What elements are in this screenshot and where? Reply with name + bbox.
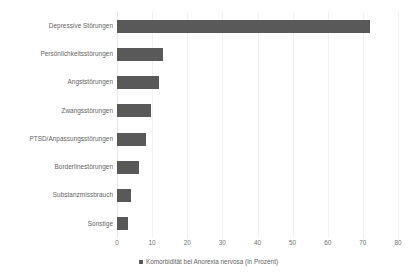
bar (117, 20, 370, 33)
x-tick-label: 80 (394, 240, 401, 246)
bar-row (117, 12, 398, 40)
category-label: Sonstige (0, 210, 113, 238)
x-tick-label: 50 (289, 240, 296, 246)
chart-legend: Komorbidität bei Anorexia nervosa (in Pr… (0, 259, 417, 265)
x-tick-label: 0 (115, 240, 119, 246)
bar-row (117, 97, 398, 125)
bar-row (117, 69, 398, 97)
legend-square-marker (139, 260, 143, 264)
bar-chart: Depressive StörungenPersönlichkeitsstöru… (0, 0, 417, 279)
category-label: Angststörungen (0, 69, 113, 97)
x-tick-label: 60 (324, 240, 331, 246)
x-tick-label: 70 (359, 240, 366, 246)
x-tick-label: 20 (184, 240, 191, 246)
bar-series (117, 12, 398, 238)
bar (117, 133, 146, 146)
category-label: Persönlichkeitsstörungen (0, 40, 113, 68)
category-label: PTSD/Anpassungsstörungen (0, 125, 113, 153)
x-tick-label: 10 (149, 240, 156, 246)
bar (117, 217, 128, 230)
plot-area (117, 12, 398, 238)
bar (117, 104, 151, 117)
x-tick-label: 40 (254, 240, 261, 246)
x-axis-tick-labels: 01020304050607080 (117, 240, 398, 252)
category-label: Substanzmissbrauch (0, 182, 113, 210)
bar (117, 48, 163, 61)
bar-row (117, 182, 398, 210)
category-label: Depressive Störungen (0, 12, 113, 40)
category-label: Borderlinestörungen (0, 153, 113, 181)
bar-row (117, 153, 398, 181)
bar (117, 189, 131, 202)
category-axis-labels: Depressive StörungenPersönlichkeitsstöru… (0, 12, 113, 238)
bar (117, 76, 159, 89)
bar-row (117, 40, 398, 68)
category-label: Zwangsstörungen (0, 97, 113, 125)
bar-row (117, 210, 398, 238)
gridline (398, 12, 399, 238)
bar (117, 161, 139, 174)
bar-row (117, 125, 398, 153)
x-tick-label: 30 (219, 240, 226, 246)
legend-label: Komorbidität bei Anorexia nervosa (in Pr… (146, 259, 278, 265)
